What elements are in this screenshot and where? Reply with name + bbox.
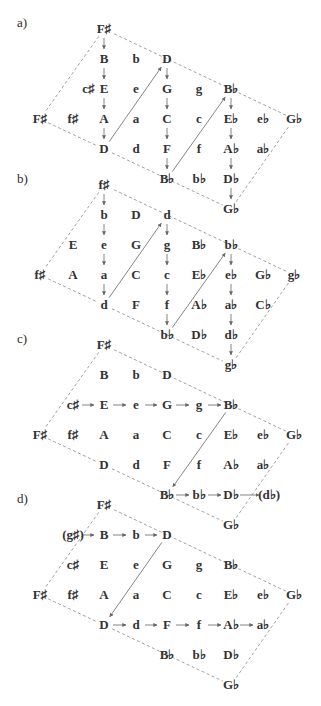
chord-node: B	[100, 527, 109, 542]
chord-node: E	[100, 557, 109, 572]
chord-node: G	[162, 81, 172, 96]
chord-node: c♯	[67, 397, 80, 412]
chord-node: C	[162, 111, 171, 126]
chord-node: E	[100, 81, 109, 96]
chord-node: A♭	[191, 297, 206, 312]
chord-node: b♭	[192, 171, 205, 186]
transition-arrow	[172, 97, 225, 172]
chord-node: f	[197, 141, 202, 156]
chord-node: A	[99, 587, 109, 602]
chord-node: a	[101, 267, 108, 282]
chord-node: F♯	[97, 497, 112, 512]
chord-node: b♭	[192, 487, 205, 502]
chord-node: b♭	[160, 327, 173, 342]
chord-node: D♭	[223, 647, 238, 662]
chord-node: F	[163, 457, 171, 472]
chord-node: a♭	[225, 297, 238, 312]
chord-node: f♯	[68, 111, 79, 126]
chord-node: f♯	[68, 427, 79, 442]
chord-node: d	[132, 141, 140, 156]
chord-node: E	[100, 397, 109, 412]
boundary-dashed-line	[236, 126, 289, 201]
chord-node: E♭	[192, 267, 207, 282]
chord-node: F	[163, 141, 171, 156]
chord-node: e♭	[257, 427, 269, 442]
chord-node: d♭	[224, 327, 237, 342]
chord-node: a♭	[257, 617, 270, 632]
chord-node: e	[133, 557, 139, 572]
chord-node: F	[163, 617, 171, 632]
transition-arrow	[173, 412, 226, 487]
chord-node: G♭	[286, 111, 302, 126]
chord-node: G♭	[223, 517, 239, 532]
chord-node: F♯	[33, 427, 48, 442]
chord-node: B♭	[160, 647, 175, 662]
boundary-dashed-line	[48, 599, 96, 621]
chord-node: e	[133, 81, 139, 96]
boundary-dashed-line	[45, 352, 99, 427]
chord-node: a♭	[257, 141, 270, 156]
chord-node: a	[133, 427, 140, 442]
section-label: a)	[17, 15, 27, 30]
chord-node: A	[99, 427, 109, 442]
chord-node: G	[162, 397, 172, 412]
chord-node: D♭	[223, 171, 238, 186]
boundary-dashed-line	[48, 279, 96, 301]
section-c: c)F♯BbDc♯EeGgB♭F♯f♯AaCcE♭e♭G♭DdFfA♭a♭B♭b…	[17, 331, 302, 532]
chord-node: f	[165, 297, 170, 312]
chord-node: E♭	[224, 111, 239, 126]
chord-node: f	[197, 457, 202, 472]
chord-node: C♭	[255, 297, 270, 312]
chord-node: c♯	[82, 81, 95, 96]
chord-node: d	[100, 297, 108, 312]
boundary-dashed-line	[112, 349, 286, 431]
chord-node: e	[101, 237, 107, 252]
chord-node: B♭	[224, 397, 239, 412]
chord-node: c	[196, 111, 202, 126]
chord-node: G♭	[255, 267, 271, 282]
chord-node: b♭	[224, 237, 237, 252]
chord-node: F♯	[97, 21, 112, 36]
chord-node: D	[162, 527, 171, 542]
chord-node: d	[132, 617, 140, 632]
section-label: c)	[17, 331, 27, 346]
chord-node: f♯	[99, 177, 110, 192]
chord-node: A♭	[223, 141, 238, 156]
chord-node: F	[132, 297, 140, 312]
chord-node: G	[162, 557, 172, 572]
chord-node: D♭	[223, 487, 238, 502]
chord-node: c	[196, 587, 202, 602]
chord-node: G♭	[223, 677, 239, 692]
transition-arrow	[172, 253, 225, 328]
boundary-dashed-line	[236, 442, 289, 517]
chord-node: c	[196, 427, 202, 442]
boundary-dashed-line	[45, 512, 99, 587]
chord-node: g	[196, 397, 203, 412]
chord-node: g	[196, 557, 203, 572]
section-label: d)	[17, 491, 28, 506]
chord-node: G♭	[286, 587, 302, 602]
boundary-dashed-line	[112, 509, 286, 591]
chord-node: a♭	[257, 457, 270, 472]
boundary-dashed-line	[236, 282, 289, 357]
chord-node: D	[162, 51, 171, 66]
boundary-dashed-line	[112, 33, 286, 115]
chord-node: D	[131, 207, 140, 222]
chord-node: d	[163, 207, 171, 222]
section-label: b)	[17, 171, 28, 186]
chord-node: A	[68, 267, 78, 282]
boundary-dashed-line	[48, 439, 96, 461]
chord-node: D	[99, 457, 108, 472]
chord-node: A♭	[223, 617, 238, 632]
chord-node: B	[100, 51, 109, 66]
chord-node: f♯	[35, 267, 46, 282]
chord-node: E	[69, 237, 78, 252]
chord-node: F♯	[33, 587, 48, 602]
chord-node: e	[133, 397, 139, 412]
transition-arrow	[109, 67, 161, 141]
chord-node: b	[132, 367, 139, 382]
transition-arrow	[109, 223, 161, 297]
chord-node: g	[164, 237, 171, 252]
chord-node: b♭	[192, 647, 205, 662]
chord-node: D	[99, 617, 108, 632]
